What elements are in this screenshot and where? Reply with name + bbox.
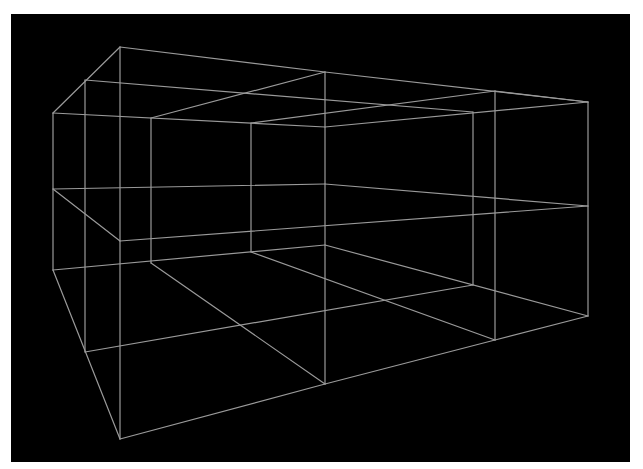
wireframe-edge	[53, 189, 120, 241]
wireframe-edge	[495, 316, 588, 340]
wireframe-edge	[120, 384, 325, 439]
wireframe-edge	[251, 91, 495, 123]
wireframe-edge	[495, 91, 588, 102]
wireframe-edge	[53, 270, 120, 439]
wireframe-edge	[85, 80, 473, 112]
wireframe-edge	[53, 245, 325, 270]
wireframe-edge	[53, 113, 325, 127]
wireframe-edge	[325, 102, 588, 127]
wireframe-edge	[325, 340, 495, 384]
wireframe-edge	[85, 285, 473, 352]
wireframe-edge	[325, 184, 588, 206]
wireframe-room-diagram	[0, 0, 643, 469]
wireframe-edge	[53, 184, 325, 189]
wireframe-edge	[325, 245, 588, 316]
wireframe-edge	[251, 252, 495, 340]
wireframe-edge	[151, 72, 325, 118]
wireframe-edge	[120, 206, 588, 241]
wireframe-edge	[151, 263, 325, 384]
wireframe-edge	[120, 47, 325, 72]
